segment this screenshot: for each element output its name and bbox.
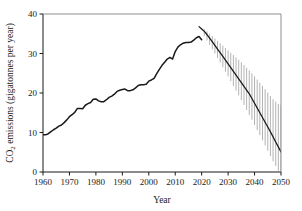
- x-axis-tick-label: 2040: [246, 177, 265, 187]
- y-axis-tick-label: 40: [28, 9, 38, 19]
- x-axis-tick-label: 2020: [193, 177, 212, 187]
- x-axis-title: Year: [153, 195, 171, 205]
- x-axis-tick-label: 1960: [34, 177, 53, 187]
- y-axis-tick-label: 30: [28, 49, 38, 59]
- x-axis-tick-label: 2050: [272, 177, 291, 187]
- y-axis-tick-label: 10: [28, 128, 38, 138]
- co2-emissions-chart-figure: 1960197019801990200020102020203020402050…: [0, 0, 302, 211]
- x-axis-tick-label: 1990: [113, 177, 132, 187]
- chart-canvas: 1960197019801990200020102020203020402050…: [0, 0, 302, 211]
- x-axis-tick-label: 2000: [140, 177, 159, 187]
- x-axis-tick-label: 2030: [219, 177, 238, 187]
- x-axis-tick-label: 1980: [87, 177, 106, 187]
- y-axis-tick-label: 0: [33, 167, 38, 177]
- x-axis-tick-label: 1970: [60, 177, 79, 187]
- y-axis-tick-label: 20: [28, 88, 38, 98]
- x-axis-tick-label: 2010: [166, 177, 185, 187]
